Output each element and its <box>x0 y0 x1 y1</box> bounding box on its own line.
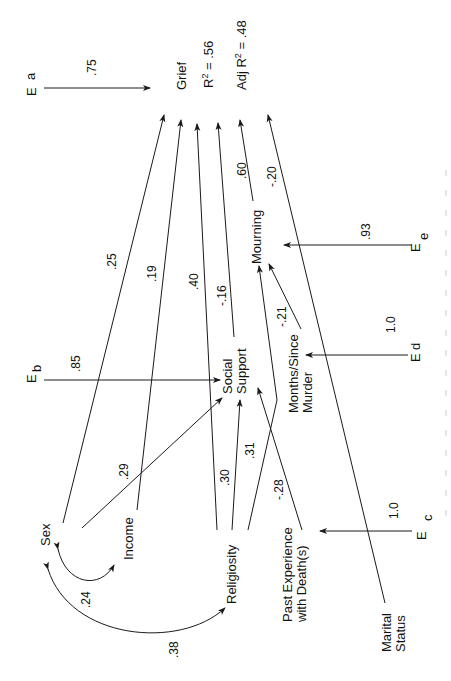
marital-line1: Marital <box>379 613 394 652</box>
months-line2: Murder <box>300 371 315 413</box>
corr-sex-religiosity <box>48 569 225 633</box>
error-ea: E a .75 <box>23 59 150 96</box>
node-months-since-murder: Months/Since Murder <box>286 334 315 413</box>
node-mourning: Mourning <box>249 210 264 264</box>
coef-socialsupport-grief: -.16 <box>215 285 229 306</box>
mourning-label: Mourning <box>249 210 264 264</box>
node-past-experience: Past Experience with Death(s) <box>280 527 309 623</box>
coef-marital-grief: -.20 <box>265 166 279 187</box>
ed-sub: d <box>408 343 423 350</box>
ee-sub: e <box>416 233 431 240</box>
coef-income-grief: .19 <box>145 265 159 282</box>
r2-value: = .56 <box>201 41 216 74</box>
path-religiosity-mourning-b <box>259 266 277 400</box>
months-line1: Months/Since <box>286 334 301 413</box>
node-marital-status: Marital Status <box>379 613 408 652</box>
ee-E: E <box>408 243 423 252</box>
social-support-line1: Social <box>220 358 235 394</box>
ea-sub: a <box>23 72 38 80</box>
path-sex-socialsupport <box>82 398 222 528</box>
coef-sex-grief: .25 <box>105 253 119 270</box>
node-religiosity: Religiosity <box>224 544 239 604</box>
corr-sex-income <box>58 549 114 581</box>
error-ee: E e .93 <box>284 223 431 252</box>
adj-r2-prefix: Adj R <box>234 58 249 90</box>
past-exp-line1: Past Experience <box>280 527 295 622</box>
node-sex: Sex <box>38 523 53 546</box>
node-income: Income <box>121 517 136 560</box>
coef-religiosity-mourning: .31 <box>243 442 257 459</box>
ea-coef: .75 <box>85 59 99 76</box>
marital-line2: Status <box>393 615 408 652</box>
path-sex-grief <box>63 115 164 523</box>
sex-label: Sex <box>38 523 53 546</box>
coef-sex-income: .24 <box>79 591 93 608</box>
coef-sex-religiosity: .38 <box>167 641 181 658</box>
path-religiosity-mourning-a <box>248 400 277 530</box>
svg-text:Adj R2 = .48: Adj R2 = .48 <box>233 20 249 90</box>
error-eb: E b .85 <box>24 355 220 383</box>
past-exp-line2: with Death(s) <box>294 545 309 623</box>
coef-religiosity-socialsupport: .30 <box>218 469 232 486</box>
path-mourning-grief <box>240 120 253 201</box>
religiosity-label: Religiosity <box>224 544 239 604</box>
eb-coef: .85 <box>69 355 83 372</box>
coef-sex-socialsupport: .29 <box>117 463 131 480</box>
svg-text:R2 = .56: R2 = .56 <box>200 41 216 88</box>
ec-E: E <box>414 531 429 540</box>
ea-E: E <box>24 87 39 96</box>
eb-E: E <box>24 374 39 383</box>
path-religiosity-socialsupport <box>232 400 240 530</box>
income-label: Income <box>121 517 136 560</box>
error-ed: E d 1.0 <box>306 316 423 362</box>
ed-coef: 1.0 <box>384 316 398 333</box>
ec-sub: c <box>420 514 435 521</box>
eb-sub: b <box>29 365 44 372</box>
r2-R: R <box>201 79 216 88</box>
node-social-support: Social Support <box>220 348 249 394</box>
path-religiosity-grief <box>197 124 217 530</box>
error-ec: E c 1.0 <box>320 502 435 540</box>
r-squared: R2 = .56 <box>200 41 216 88</box>
grief-label: Grief <box>174 61 189 90</box>
node-grief: Grief <box>174 61 189 90</box>
coef-months-mourning: -.21 <box>275 306 289 327</box>
social-support-line2: Support <box>234 348 249 394</box>
coef-mourning-grief: .60 <box>235 162 249 179</box>
ee-coef: .93 <box>359 223 373 240</box>
coef-religiosity-grief: .40 <box>187 273 201 290</box>
path-diagram: E a .75 E b .85 E c 1.0 E d 1.0 E e .93 … <box>0 0 451 681</box>
adj-r-squared: Adj R2 = .48 <box>233 20 249 90</box>
adj-r2-value: = .48 <box>234 20 249 53</box>
ec-coef: 1.0 <box>387 502 401 519</box>
coef-pastexp-socialsupport: -.28 <box>272 479 286 500</box>
path-income-grief <box>137 120 181 510</box>
ed-E: E <box>408 353 423 362</box>
